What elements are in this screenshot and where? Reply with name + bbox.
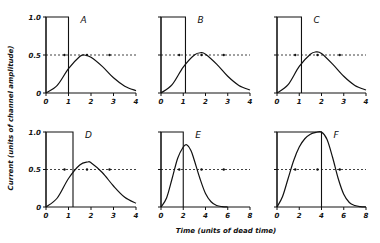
x-tick-label: 0 [275, 212, 280, 220]
x-tick-label: 4 [134, 212, 139, 220]
x-tick-label: 2 [203, 98, 208, 106]
x-tick-label: 3 [225, 98, 230, 106]
response-curve [46, 162, 136, 207]
panel-d: 0123400.51.0D [29, 129, 139, 221]
panel-label: C [313, 15, 320, 25]
x-tick-label: 1 [66, 212, 71, 220]
figure-panels: 0123400.51.0A01234B01234C0123400.51.0D02… [0, 0, 380, 243]
x-tick-label: 4 [364, 98, 369, 106]
x-tick-label: 3 [111, 98, 116, 106]
y-tick-label: 0.5 [29, 166, 42, 174]
y-tick-label: 1.0 [29, 14, 42, 22]
response-curve [277, 52, 366, 93]
x-tick-label: 2 [297, 212, 302, 220]
x-tick-label: 6 [225, 212, 230, 220]
response-curve [161, 145, 228, 207]
x-tick-label: 2 [89, 212, 94, 220]
y-tick-label: 0 [36, 204, 41, 212]
y-tick-label: 0.5 [29, 52, 42, 60]
x-tick-label: 0 [159, 212, 164, 220]
y-tick-label: 0 [36, 90, 41, 98]
x-tick-label: 2 [319, 98, 324, 106]
x-tick-label: 4 [203, 212, 208, 220]
y-tick-label: 1.0 [29, 129, 42, 137]
x-tick-label: 6 [341, 212, 346, 220]
x-tick-label: 2 [89, 98, 94, 106]
response-curve [46, 55, 136, 93]
response-curve [161, 53, 250, 93]
panel-label: A [80, 15, 87, 25]
x-tick-label: 2 [181, 212, 186, 220]
panel-b: 01234B [158, 15, 253, 106]
x-tick-label: 0 [44, 98, 49, 106]
x-tick-label: 8 [364, 212, 369, 220]
panel-label: F [334, 130, 340, 140]
panel-c: 01234C [274, 15, 369, 106]
panel-label: D [85, 130, 92, 140]
x-tick-label: 3 [111, 212, 116, 220]
x-tick-label: 0 [159, 98, 164, 106]
x-tick-label: 4 [248, 98, 253, 106]
x-tick-label: 4 [134, 98, 139, 106]
y-axis-label: Current (units of channel amplitude) [7, 46, 15, 191]
x-tick-label: 1 [66, 98, 71, 106]
panel-label: E [195, 130, 201, 140]
x-tick-label: 1 [181, 98, 186, 106]
panel-a: 0123400.51.0A [29, 14, 139, 107]
x-tick-label: 3 [341, 98, 346, 106]
x-tick-label: 0 [275, 98, 280, 106]
panel-e: 02468E [158, 130, 253, 220]
panel-label: B [197, 15, 203, 25]
panel-f: 02468F [274, 130, 369, 220]
x-tick-label: 0 [44, 212, 49, 220]
x-tick-label: 8 [248, 212, 253, 220]
x-tick-label: 4 [319, 212, 324, 220]
x-axis-label: Time (units of dead time) [176, 227, 276, 235]
x-tick-label: 1 [297, 98, 302, 106]
